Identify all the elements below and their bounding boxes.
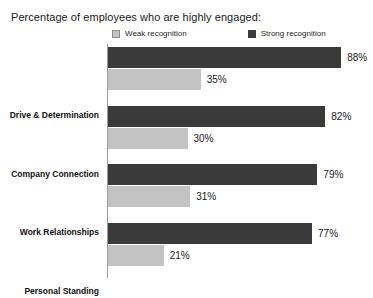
- bar-row-weak: 21%: [108, 245, 190, 266]
- bar-strong: [108, 164, 317, 185]
- legend-label-weak: Weak recognition: [125, 29, 187, 38]
- category-label: Company Connection: [0, 169, 99, 179]
- legend-label-strong: Strong recognition: [261, 29, 326, 38]
- category-label: Work Relationships: [0, 227, 99, 237]
- bar-strong: [108, 223, 312, 244]
- bar-value-strong: 79%: [323, 169, 343, 180]
- bar-value-strong: 82%: [331, 111, 351, 122]
- chart-title: Percentage of employees who are highly e…: [11, 11, 261, 23]
- bar-value-weak: 21%: [170, 250, 190, 261]
- bar-weak: [108, 245, 164, 266]
- bar-weak: [108, 128, 188, 149]
- bar-value-weak: 30%: [194, 133, 214, 144]
- plot-area: 88% 35% 82% 30% 79% 31%: [107, 44, 373, 278]
- chart-legend: Weak recognition Strong recognition: [108, 27, 341, 40]
- bar-row-strong: 88%: [108, 47, 367, 68]
- category-label: Drive & Determination: [0, 110, 99, 120]
- bar-value-strong: 77%: [318, 228, 338, 239]
- bar-strong: [108, 47, 341, 68]
- bar-row-weak: 30%: [108, 128, 214, 149]
- legend-swatch-strong-icon: [248, 30, 256, 38]
- bar-group: 88% 35%: [108, 44, 373, 103]
- bar-group: 82% 30%: [108, 103, 373, 162]
- legend-item-weak-recognition: Weak recognition: [112, 29, 187, 38]
- category-label: Personal Standing: [0, 286, 99, 296]
- bar-row-weak: 35%: [108, 69, 227, 90]
- bar-row-strong: 82%: [108, 106, 351, 127]
- bar-weak: [108, 69, 201, 90]
- bar-row-strong: 79%: [108, 164, 343, 185]
- bar-row-weak: 31%: [108, 186, 216, 207]
- bar-strong: [108, 106, 325, 127]
- bar-weak: [108, 186, 190, 207]
- legend-item-strong-recognition: Strong recognition: [248, 29, 326, 38]
- legend-swatch-weak-icon: [112, 30, 120, 38]
- bar-chart: Percentage of employees who are highly e…: [0, 0, 373, 298]
- bar-value-strong: 88%: [347, 52, 367, 63]
- bar-group: 77% 21%: [108, 220, 373, 279]
- bar-row-strong: 77%: [108, 223, 338, 244]
- bar-group: 79% 31%: [108, 161, 373, 220]
- bar-value-weak: 31%: [196, 191, 216, 202]
- bar-value-weak: 35%: [207, 74, 227, 85]
